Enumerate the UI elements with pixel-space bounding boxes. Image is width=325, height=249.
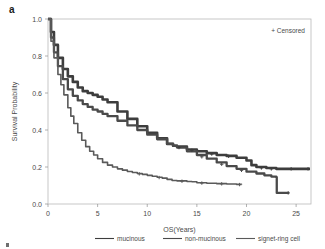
y-tick-label: 0.4 [32, 127, 42, 134]
survival-curve-figure: a 0.00.20.40.60.81.0 0510152025 + Censor… [0, 0, 325, 249]
y-tick-label: 1.0 [32, 16, 42, 23]
chart-legend: mucinousnon-mucinoussignet-ring cell [95, 235, 300, 243]
x-tick-label: 15 [193, 210, 201, 217]
y-axis-title: Survival Probability [11, 81, 19, 141]
legend-label-2: signet-ring cell [258, 235, 300, 243]
x-tick-label: 5 [96, 210, 100, 217]
survival-chart: 0.00.20.40.60.81.0 0510152025 + Censored… [0, 0, 325, 249]
censored-legend-note: + Censored [271, 27, 305, 34]
page-edge-mark [6, 243, 9, 247]
x-tick-label: 25 [292, 210, 300, 217]
y-tick-label: 0.0 [32, 201, 42, 208]
x-tick-label: 20 [243, 210, 251, 217]
y-axis-ticks: 0.00.20.40.60.81.0 [32, 16, 48, 208]
x-tick-label: 0 [46, 210, 50, 217]
legend-label-0: mucinous [117, 235, 146, 242]
x-axis-ticks: 0510152025 [46, 204, 300, 217]
x-axis-title: OS(Years) [163, 226, 195, 234]
y-tick-label: 0.6 [32, 90, 42, 97]
legend-label-1: non-mucinous [185, 235, 227, 242]
y-tick-label: 0.2 [32, 164, 42, 171]
x-tick-label: 10 [143, 210, 151, 217]
y-tick-label: 0.8 [32, 53, 42, 60]
